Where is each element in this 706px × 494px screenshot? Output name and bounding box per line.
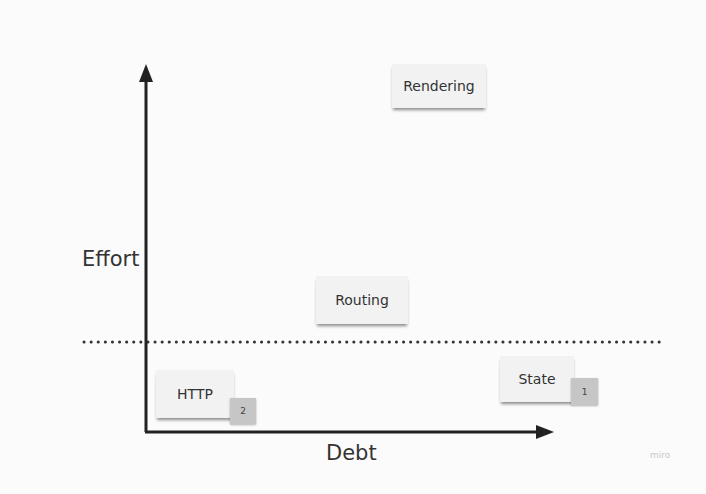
sticky-note-rendering[interactable]: Rendering	[392, 64, 486, 108]
sticky-note-state[interactable]: State	[500, 356, 574, 402]
count-badge-http: 2	[230, 398, 256, 424]
sticky-note-routing[interactable]: Routing	[316, 276, 408, 324]
count-badge-state: 1	[571, 378, 598, 405]
sticky-note-http[interactable]: HTTP	[156, 370, 234, 418]
x-axis-arrow-icon	[536, 425, 554, 439]
y-axis-arrow-icon	[139, 64, 153, 82]
sticky-note-label: HTTP	[177, 386, 213, 402]
badge-number: 1	[582, 387, 588, 397]
sticky-note-label: Routing	[335, 292, 389, 308]
y-axis-label: Effort	[82, 247, 139, 271]
diagram-canvas: Effort Debt Rendering Routing HTTP 2 Sta…	[0, 0, 706, 494]
sticky-note-label: State	[518, 371, 555, 387]
x-axis-label: Debt	[326, 441, 377, 465]
miro-watermark: miro	[650, 450, 670, 460]
sticky-note-label: Rendering	[403, 78, 475, 94]
badge-number: 2	[240, 406, 246, 416]
